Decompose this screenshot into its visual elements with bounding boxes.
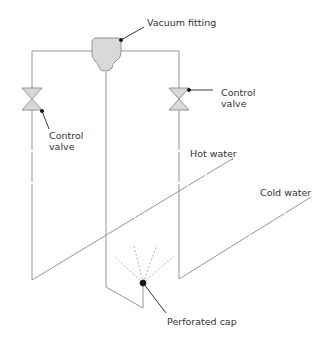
vacuum-fitting-label: Vacuum fitting — [147, 17, 216, 28]
cold-water-pipe — [179, 197, 311, 279]
left-control-valve-label: Control valve — [49, 130, 83, 152]
left-control-valve-label-line2: valve — [49, 141, 83, 152]
left-valve-dot — [40, 109, 43, 112]
diagram-svg — [0, 0, 327, 353]
right-valve-dot — [187, 88, 190, 91]
siphon-pipe — [106, 72, 143, 308]
perforated-cap-leader — [143, 283, 166, 313]
hot-water-pipe — [32, 159, 232, 280]
vacuum-fitting-shape — [92, 38, 121, 71]
right-control-valve — [169, 88, 189, 110]
right-control-valve-label: Control valve — [221, 87, 255, 109]
right-control-valve-label-line2: valve — [221, 98, 255, 109]
perforated-cap-label: Perforated cap — [167, 316, 237, 327]
hot-water-label: Hot water — [190, 148, 237, 159]
left-control-valve — [22, 88, 42, 110]
spray-line — [143, 256, 174, 283]
vacuum-fitting-leader — [121, 27, 144, 40]
cold-water-label: Cold water — [260, 187, 311, 198]
left-control-valve-label-line1: Control — [49, 130, 83, 141]
diagram-canvas: Vacuum fitting Control valve Control val… — [0, 0, 327, 353]
right-control-valve-label-line1: Control — [221, 87, 255, 98]
perforated-cap-dot — [140, 280, 146, 286]
vacuum-fitting-dot — [119, 38, 122, 41]
spray-line — [134, 246, 143, 283]
left-valve-leader — [42, 111, 49, 129]
spray-line — [114, 256, 143, 283]
